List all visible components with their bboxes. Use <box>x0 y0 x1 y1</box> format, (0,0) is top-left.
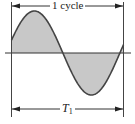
cycle-label: 1 cycle <box>50 0 85 11</box>
period-label: T1 <box>60 102 75 116</box>
arrowhead-right-icon <box>115 4 123 9</box>
period-symbol: T <box>62 101 69 115</box>
arrowhead-left-icon <box>12 4 20 9</box>
period-subscript: 1 <box>69 107 73 116</box>
arrowhead-right-icon <box>115 107 123 112</box>
arrowhead-left-icon <box>12 107 20 112</box>
